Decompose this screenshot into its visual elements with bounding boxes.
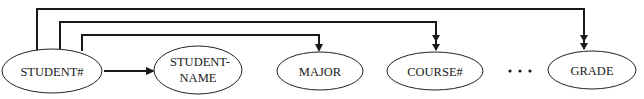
node-major: MAJOR xyxy=(277,52,363,90)
node-grade: GRADE xyxy=(548,51,636,89)
node-student-number: STUDENT# xyxy=(2,49,102,93)
arrowhead-icon xyxy=(580,35,588,42)
node-course-number: COURSE# xyxy=(387,52,483,90)
edge-student-to-course xyxy=(60,22,440,51)
node-student-name: STUDENT- NAME xyxy=(154,46,242,94)
arrowhead-icon xyxy=(432,44,440,51)
dependency-diagram: STUDENT# STUDENT- NAME MAJOR COURSE# GRA… xyxy=(0,0,644,99)
arrowhead-icon xyxy=(315,44,323,52)
dot-icon xyxy=(518,69,521,72)
dot-icon xyxy=(508,69,511,72)
node-label: MAJOR xyxy=(299,65,342,79)
node-label-line-1: STUDENT- xyxy=(170,55,230,69)
arrowhead-icon xyxy=(580,43,588,50)
dot-icon xyxy=(528,69,531,72)
ellipsis-more-attributes xyxy=(508,69,531,72)
node-label: STUDENT# xyxy=(20,65,84,79)
edge-student-to-grade xyxy=(37,9,588,51)
node-label: COURSE# xyxy=(407,65,463,79)
node-label: GRADE xyxy=(570,64,613,78)
node-label-line-2: NAME xyxy=(180,71,217,85)
arrowhead-icon xyxy=(432,35,440,42)
edge-student-to-name xyxy=(104,67,155,75)
